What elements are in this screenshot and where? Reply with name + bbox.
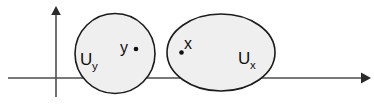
x-axis-arrow-icon	[361, 73, 371, 84]
point-x-label: x	[184, 35, 192, 52]
diagram-svg: U y y U x x	[0, 0, 374, 105]
y-axis	[51, 6, 61, 97]
region-uy-subscript: y	[92, 60, 98, 72]
region-uy-group: U y	[75, 14, 155, 94]
diagram-canvas: U y y U x x	[0, 0, 374, 105]
point-y-dot-icon	[134, 47, 139, 52]
point-y-label: y	[120, 39, 128, 56]
region-ux-subscript: x	[250, 59, 256, 71]
y-axis-arrow-icon	[51, 6, 61, 15]
region-uy-label: U	[80, 50, 92, 69]
region-ux-label: U	[238, 49, 250, 68]
